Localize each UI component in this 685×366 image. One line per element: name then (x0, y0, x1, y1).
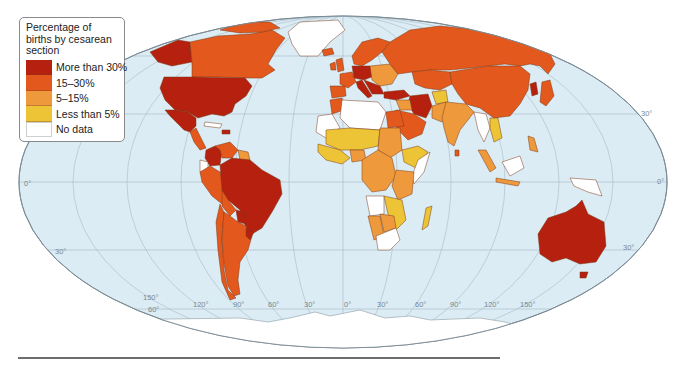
legend-swatch (26, 91, 52, 107)
legend-item-5-15: 5–15% (26, 91, 119, 107)
legend-label: More than 30% (56, 61, 127, 73)
lon-label-60e: 60° (415, 300, 426, 309)
lon-label-150w: 150° (143, 293, 159, 302)
lon-label-150e: 150° (520, 300, 536, 309)
legend-label: No data (56, 123, 93, 135)
lon-label-0: 0° (344, 300, 351, 309)
legend-label: Less than 5% (56, 108, 120, 120)
legend-item-15-30: 15–30% (26, 75, 119, 91)
legend-title: Percentage of births by cesarean section (26, 22, 119, 57)
legend-swatch (26, 106, 52, 122)
sahel-mali-niger (326, 128, 380, 150)
lat-label-60s: 60° (148, 305, 159, 314)
legend-swatch (26, 75, 52, 91)
lon-label-120w: 120° (193, 300, 209, 309)
lat-label-30s-left: 30° (55, 247, 66, 256)
iberia (330, 86, 346, 98)
legend-swatch (26, 122, 52, 138)
lat-label-0-right: 0° (657, 177, 664, 186)
lon-label-60w: 60° (268, 300, 279, 309)
legend-item-no-data: No data (26, 122, 119, 138)
lon-label-30e: 30° (377, 300, 388, 309)
legend-swatch (26, 60, 52, 76)
lon-label-120e: 120° (484, 300, 500, 309)
map-legend: Percentage of births by cesarean section… (19, 17, 125, 142)
lat-label-0-left: 0° (24, 179, 31, 188)
lon-label-30w: 30° (304, 300, 315, 309)
lat-label-30n-right: 30° (641, 109, 652, 118)
legend-label: 5–15% (56, 92, 89, 104)
dominican-republic (222, 130, 230, 134)
sri-lanka (455, 150, 459, 156)
bottom-rule (18, 357, 500, 359)
lon-label-90e: 90° (450, 300, 461, 309)
legend-label: 15–30% (56, 77, 95, 89)
legend-item-more-than-30: More than 30% (26, 60, 119, 76)
lon-label-90w: 90° (233, 300, 244, 309)
legend-item-less-than-5: Less than 5% (26, 106, 119, 122)
lat-label-30s-right: 30° (623, 243, 634, 252)
